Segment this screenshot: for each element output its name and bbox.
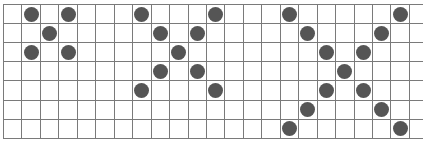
grid-dot [374, 26, 389, 41]
grid-line-vertical [21, 4, 22, 138]
grid-dot [190, 64, 205, 79]
grid-dot [208, 83, 223, 98]
grid-dot [134, 83, 149, 98]
grid-line-vertical [95, 4, 96, 138]
grid-dot [356, 83, 371, 98]
grid-line-vertical [224, 4, 225, 138]
grid-dot [300, 26, 315, 41]
grid-dot [190, 26, 205, 41]
grid-dot [208, 7, 223, 22]
grid-dot [319, 45, 334, 60]
grid-line-horizontal [3, 100, 423, 101]
grid-line-vertical [317, 4, 318, 138]
grid-line-vertical [169, 4, 170, 138]
grid-dot [171, 45, 186, 60]
grid-line-vertical [372, 4, 373, 138]
grid-line-vertical [188, 4, 189, 138]
grid-line-horizontal [3, 80, 423, 81]
grid-line-vertical [151, 4, 152, 138]
grid-dot [282, 121, 297, 136]
grid-dot [42, 26, 57, 41]
grid-dot [319, 83, 334, 98]
grid-line-horizontal [3, 61, 423, 62]
grid-line-vertical [3, 4, 4, 138]
grid-line-vertical [261, 4, 262, 138]
grid-line-vertical [354, 4, 355, 138]
grid-line-horizontal [3, 4, 423, 5]
grid-line-vertical [390, 4, 391, 138]
grid-line-vertical [243, 4, 244, 138]
grid-line-vertical [206, 4, 207, 138]
grid-dot [356, 45, 371, 60]
grid-line-vertical [280, 4, 281, 138]
grid-dot [393, 7, 408, 22]
grid-line-horizontal [3, 23, 423, 24]
grid-dot [393, 121, 408, 136]
grid-dot [282, 7, 297, 22]
grid-line-horizontal [3, 42, 423, 43]
grid-dot [337, 64, 352, 79]
grid-dot [374, 102, 389, 117]
grid-line-vertical [409, 4, 410, 138]
grid-line-vertical [58, 4, 59, 138]
grid-dot [153, 64, 168, 79]
grid-dot [153, 26, 168, 41]
grid-dot [134, 7, 149, 22]
grid-line-vertical [77, 4, 78, 138]
grid-line-horizontal [3, 119, 423, 120]
grid-line-vertical [40, 4, 41, 138]
grid-dot [24, 45, 39, 60]
grid-line-horizontal [3, 138, 423, 139]
grid-dot [24, 7, 39, 22]
grid-dot [61, 7, 76, 22]
grid-line-vertical [114, 4, 115, 138]
grid-line-vertical [335, 4, 336, 138]
grid-dot [61, 45, 76, 60]
grid-dot [300, 102, 315, 117]
grid-line-vertical [132, 4, 133, 138]
grid-line-vertical [298, 4, 299, 138]
